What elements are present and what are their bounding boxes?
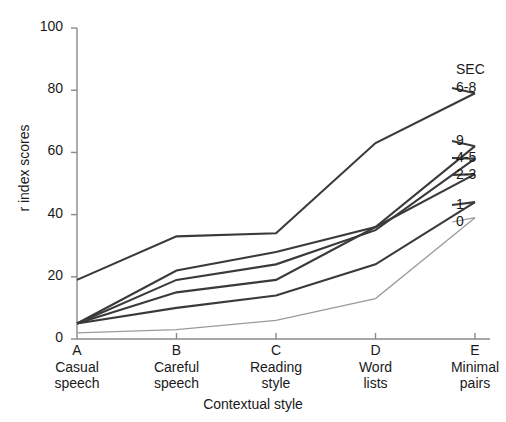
y-tick-label: 100 — [29, 19, 63, 35]
x-category-label-line: lists — [331, 376, 421, 392]
x-category-label-line: Minimal — [430, 360, 506, 376]
x-category-label-line: Word — [331, 360, 421, 376]
legend-entry-0: 0 — [456, 213, 464, 229]
x-category-label-line: speech — [132, 376, 222, 392]
legend-entry-4-5: 4-5 — [456, 149, 476, 165]
x-tick-label-a: A — [57, 343, 97, 359]
x-tick-label-b: B — [157, 343, 197, 359]
legend-entry-6-8: 6-8 — [456, 79, 476, 95]
y-axis-title: r index scores — [16, 108, 32, 228]
legend-entry-9: 9 — [456, 132, 464, 148]
x-category-label-line: Reading — [231, 360, 321, 376]
x-category-label: Minimalpairs — [430, 360, 506, 391]
x-tick-label-e: E — [455, 343, 495, 359]
x-axis-title: Contextual style — [0, 396, 506, 412]
y-tick-label: 40 — [29, 206, 63, 222]
y-tick-label: 60 — [29, 143, 63, 159]
x-category-label-line: pairs — [430, 376, 506, 392]
x-tick-label-c: C — [256, 343, 296, 359]
x-category-label: Readingstyle — [231, 360, 321, 391]
chart-container: 020406080100 ABCDE CasualspeechCarefulsp… — [0, 0, 506, 422]
x-category-label-line: style — [231, 376, 321, 392]
series-line-0 — [77, 218, 475, 333]
legend-title: SEC — [456, 61, 485, 77]
x-category-label: Carefulspeech — [132, 360, 222, 391]
x-category-label: Casualspeech — [32, 360, 122, 391]
legend-entry-2-3: 2-3 — [456, 166, 476, 182]
x-category-label-line: Careful — [132, 360, 222, 376]
x-category-label: Wordlists — [331, 360, 421, 391]
y-tick-label: 80 — [29, 81, 63, 97]
x-axis-ticks — [177, 333, 476, 339]
x-tick-label-d: D — [356, 343, 396, 359]
x-category-label-line: speech — [32, 376, 122, 392]
y-axis-ticks — [71, 28, 77, 339]
legend-entry-1: 1 — [456, 196, 464, 212]
y-tick-label: 20 — [29, 268, 63, 284]
series-line-4-5 — [77, 159, 475, 324]
series-line-2-3 — [77, 174, 475, 323]
chart-series-group — [77, 93, 475, 332]
x-category-label-line: Casual — [32, 360, 122, 376]
